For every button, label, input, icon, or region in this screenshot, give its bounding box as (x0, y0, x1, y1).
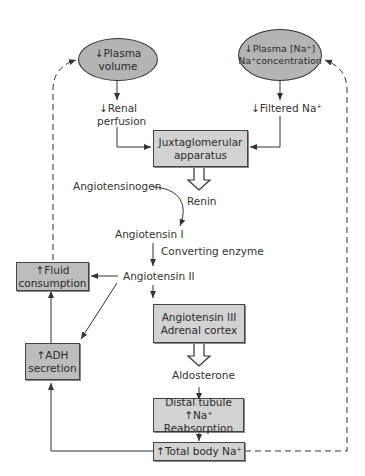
adh-secretion-line1: ↑ADH (37, 349, 69, 362)
fluid-consumption-line2: consumption (19, 277, 87, 290)
plasma-volume-node: ↓Plasma volume (78, 38, 158, 81)
distal-tubule-line2: ↑Na⁺ Reabsorption (154, 409, 243, 435)
renal-perfusion-label: ↓Renal perfusion (97, 102, 139, 128)
juxtaglomerular-apparatus-box: Juxtaglomerular apparatus (153, 130, 248, 167)
plasma-sodium-line2: Na⁺concentration (238, 55, 322, 67)
angiotensin-iii-line1: Angiotensin III (162, 311, 237, 324)
plasma-volume-line2: volume (99, 60, 138, 73)
plasma-sodium-line1: ↓Plasma [Na⁺] (245, 43, 316, 55)
distal-tubule-line1: Distal tubule (165, 396, 232, 409)
converting-enzyme-label: Converting enzyme (161, 245, 264, 258)
renal-perfusion-line1: ↓Renal (97, 102, 139, 115)
angiotensin-iii-line2: Adrenal cortex (161, 324, 238, 337)
plasma-volume-line1: ↓Plasma (95, 47, 142, 60)
total-body-sodium-text: ↑Total body Na⁺ (156, 445, 242, 458)
total-body-sodium-box: ↑Total body Na⁺ (153, 442, 245, 461)
angiotensin-iii-box: Angiotensin III Adrenal cortex (153, 304, 245, 343)
angiotensinogen-label: Angiotensinogen (73, 180, 161, 193)
renin-label: Renin (187, 195, 217, 208)
angiotensin-ii-label: Angiotensin II (123, 270, 195, 283)
filtered-sodium-label: ↓Filtered Na⁺ (251, 102, 322, 115)
adh-secretion-line2: secretion (28, 362, 76, 375)
renal-perfusion-line2: perfusion (97, 115, 139, 128)
angiotensin-i-label: Angiotensin I (115, 228, 184, 241)
juxtaglomerular-line1: Juxtaglomerular (159, 136, 243, 149)
distal-tubule-box: Distal tubule ↑Na⁺ Reabsorption (153, 398, 244, 432)
aldosterone-label: Aldosterone (172, 369, 235, 382)
adh-secretion-box: ↑ADH secretion (25, 343, 80, 380)
plasma-sodium-node: ↓Plasma [Na⁺] Na⁺concentration (238, 29, 322, 81)
fluid-consumption-line1: ↑Fluid (36, 264, 70, 277)
fluid-consumption-box: ↑Fluid consumption (16, 262, 89, 291)
juxtaglomerular-line2: apparatus (174, 149, 227, 162)
